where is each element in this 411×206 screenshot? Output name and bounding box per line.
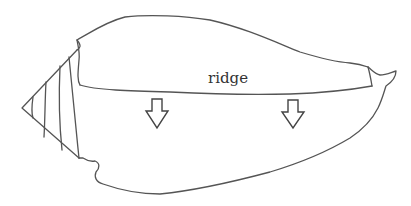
shell-drawing: [0, 0, 411, 206]
arrow-down-icon: [282, 100, 304, 128]
shell-spire: [22, 50, 79, 158]
ridge-label: ridge: [208, 71, 248, 86]
cone-shell-diagram: ridge: [0, 0, 411, 206]
arrow-down-icon: [146, 99, 168, 128]
shell-body-outline: [77, 16, 396, 194]
